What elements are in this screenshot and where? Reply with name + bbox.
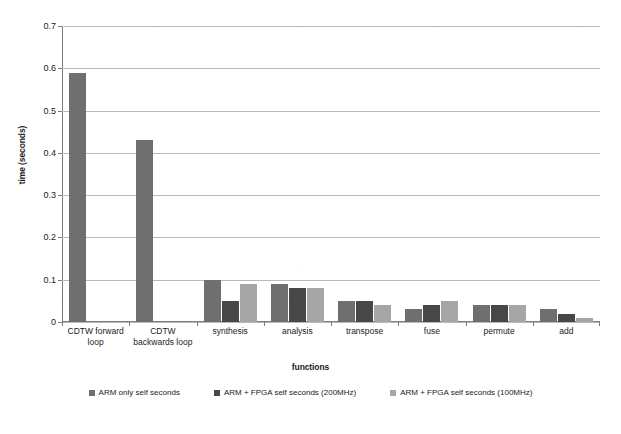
y-tick-label: 0.6 <box>43 63 56 73</box>
chart-legend: ARM only self secondsARM + FPGA self sec… <box>0 388 621 397</box>
x-category-label: permute <box>466 326 533 348</box>
bar <box>509 305 526 322</box>
bar-group <box>62 26 129 322</box>
bar-group <box>197 26 264 322</box>
bar-group <box>129 26 196 322</box>
bar-group <box>331 26 398 322</box>
y-tick-label: 0.1 <box>43 275 56 285</box>
legend-label: ARM + FPGA self seconds (100MHz) <box>400 388 532 397</box>
bar <box>405 309 422 322</box>
bar <box>491 305 508 322</box>
y-axis-title: time (seconds) <box>17 95 27 215</box>
y-tick-label: 0.5 <box>43 106 56 116</box>
y-tick-label: 0.2 <box>43 232 56 242</box>
x-category-label: CDTW backwards loop <box>129 326 196 348</box>
bar <box>558 314 575 322</box>
x-category-label: fuse <box>398 326 465 348</box>
x-axis-title: functions <box>0 362 621 372</box>
legend-label: ARM only self seconds <box>99 388 180 397</box>
legend-item[interactable]: ARM + FPGA self seconds (100MHz) <box>390 388 532 397</box>
bar <box>540 309 557 322</box>
bar-groups <box>62 26 600 322</box>
bar <box>307 288 324 322</box>
bar <box>374 305 391 322</box>
bar <box>576 318 593 322</box>
plot-area: 00.10.20.30.40.50.60.7 <box>62 26 600 322</box>
bar <box>423 305 440 322</box>
bar <box>473 305 490 322</box>
bar <box>271 284 288 322</box>
bar <box>289 288 306 322</box>
bar-chart: time (seconds) 00.10.20.30.40.50.60.7 CD… <box>0 0 621 434</box>
x-category-label: add <box>533 326 600 348</box>
bar <box>240 284 257 322</box>
x-category-label: analysis <box>264 326 331 348</box>
bar <box>441 301 458 322</box>
legend-item[interactable]: ARM only self seconds <box>89 388 180 397</box>
bar <box>204 280 221 322</box>
bar <box>338 301 355 322</box>
legend-swatch-icon <box>390 390 396 396</box>
x-category-label: synthesis <box>197 326 264 348</box>
legend-swatch-icon <box>214 390 220 396</box>
legend-label: ARM + FPGA self seconds (200MHz) <box>224 388 356 397</box>
bar-group <box>466 26 533 322</box>
bar <box>136 140 153 322</box>
bar <box>356 301 373 322</box>
legend-item[interactable]: ARM + FPGA self seconds (200MHz) <box>214 388 356 397</box>
x-axis-category-labels: CDTW forward loopCDTW backwards loopsynt… <box>62 326 600 348</box>
y-tick-label: 0.7 <box>43 21 56 31</box>
y-tick-label: 0 <box>51 317 56 327</box>
bar-group <box>398 26 465 322</box>
legend-swatch-icon <box>89 390 95 396</box>
bar-group <box>533 26 600 322</box>
x-category-label: CDTW forward loop <box>62 326 129 348</box>
bar <box>222 301 239 322</box>
bar <box>69 73 86 322</box>
y-tick-label: 0.4 <box>43 148 56 158</box>
x-category-label: transpose <box>331 326 398 348</box>
bar-group <box>264 26 331 322</box>
y-tick-label: 0.3 <box>43 190 56 200</box>
